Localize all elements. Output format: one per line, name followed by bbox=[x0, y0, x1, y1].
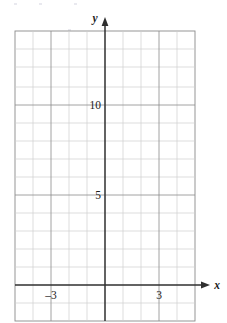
x-tick-label-negative-3: –3 bbox=[44, 289, 57, 301]
x-axis-label: x bbox=[213, 279, 220, 291]
y-tick-label-5: 5 bbox=[95, 189, 101, 201]
coordinate-graph-svg: y x 10 5 –3 3 bbox=[0, 0, 227, 323]
x-axis-arrow-icon bbox=[201, 282, 210, 289]
coordinate-graph-figure: y x 10 5 –3 3 bbox=[0, 0, 227, 323]
y-tick-label-10: 10 bbox=[90, 99, 102, 111]
y-axis-arrow-icon bbox=[102, 17, 109, 26]
x-tick-label-3: 3 bbox=[156, 289, 162, 301]
y-axis-label: y bbox=[90, 12, 98, 25]
